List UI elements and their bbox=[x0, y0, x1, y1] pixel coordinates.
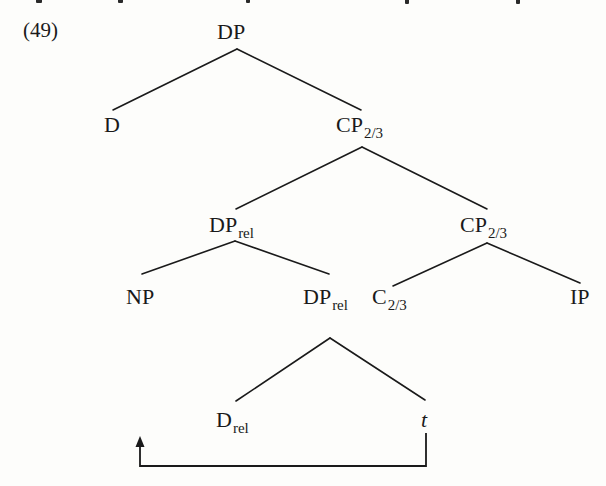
movement-arrow bbox=[140, 433, 426, 466]
node-c: C2/3 bbox=[372, 285, 407, 311]
arrowhead-icon bbox=[136, 436, 145, 447]
branch-cp-to-dprel bbox=[236, 147, 362, 209]
node-np: NP bbox=[126, 285, 154, 309]
node-ip: IP bbox=[570, 285, 590, 309]
branch-dprel-lower-to-trace bbox=[330, 338, 425, 400]
node-dp-root: DP bbox=[217, 20, 245, 44]
node-d-rel: Drel bbox=[216, 408, 249, 434]
branch-dp-to-cp bbox=[237, 49, 361, 110]
branch-cp-lower-to-c bbox=[393, 243, 487, 286]
node-cp-lower: CP2/3 bbox=[460, 213, 507, 239]
syntax-tree-branches bbox=[0, 0, 606, 486]
node-dp-rel-upper: DPrel bbox=[209, 213, 254, 239]
branch-dprel-lower-to-drel bbox=[236, 338, 330, 401]
branch-dprel-to-np bbox=[142, 241, 235, 274]
node-dp-rel-lower: DPrel bbox=[303, 285, 348, 311]
node-d: D bbox=[104, 113, 120, 137]
branch-dprel-to-dprel-lower bbox=[235, 241, 329, 274]
node-trace: t bbox=[421, 408, 427, 432]
branch-cp-to-cp-lower bbox=[362, 147, 487, 209]
node-cp-top: CP2/3 bbox=[336, 113, 383, 139]
branch-dp-to-d bbox=[113, 49, 237, 110]
branch-cp-lower-to-ip bbox=[487, 243, 580, 283]
